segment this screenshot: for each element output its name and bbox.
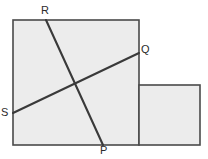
- vertex-label-P: P: [100, 145, 108, 156]
- vertex-label-Q: Q: [141, 44, 150, 55]
- vertex-label-S: S: [1, 107, 9, 118]
- geometry-figure: R Q S P: [0, 0, 208, 159]
- vertex-label-R: R: [41, 5, 49, 16]
- geometry-canvas: [0, 0, 208, 159]
- small-rectangle: [139, 85, 200, 145]
